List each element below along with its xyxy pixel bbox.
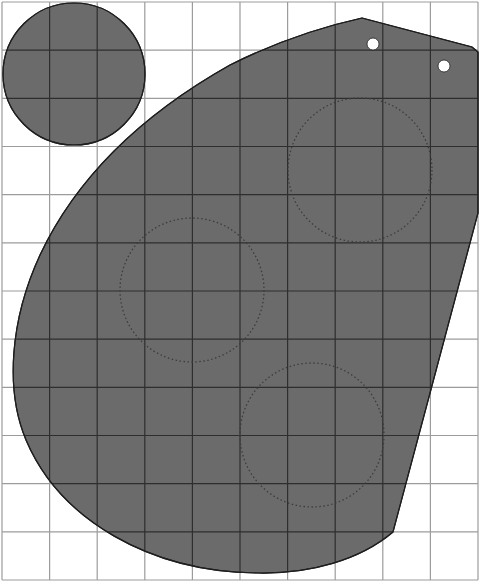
small-circle bbox=[3, 3, 145, 145]
hole-1 bbox=[367, 38, 379, 50]
hole-2 bbox=[438, 60, 450, 72]
diagram-canvas bbox=[0, 0, 480, 585]
